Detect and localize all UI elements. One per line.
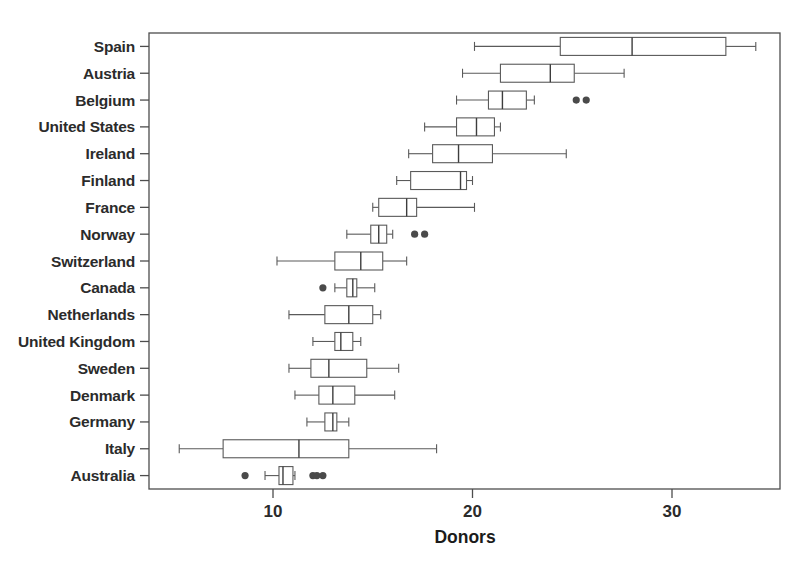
category-label-australia: Australia bbox=[70, 467, 135, 484]
category-label-italy: Italy bbox=[105, 440, 136, 457]
category-label-finland: Finland bbox=[81, 172, 135, 189]
category-label-austria: Austria bbox=[83, 65, 136, 82]
x-tick-label-30: 30 bbox=[663, 502, 682, 521]
outlier-point bbox=[583, 96, 590, 103]
chart-canvas: SpainAustriaBelgiumUnited StatesIrelandF… bbox=[0, 0, 804, 563]
category-label-united-kingdom: United Kingdom bbox=[18, 333, 135, 350]
x-tick-label-10: 10 bbox=[264, 502, 283, 521]
outlier-point bbox=[241, 472, 248, 479]
x-axis-title: Donors bbox=[434, 527, 496, 547]
category-label-germany: Germany bbox=[69, 413, 135, 430]
category-label-spain: Spain bbox=[94, 38, 135, 55]
outlier-point bbox=[573, 96, 580, 103]
category-label-united-states: United States bbox=[39, 118, 135, 135]
outlier-point bbox=[411, 231, 418, 238]
category-label-belgium: Belgium bbox=[75, 92, 135, 109]
x-tick-label-20: 20 bbox=[463, 502, 482, 521]
category-label-norway: Norway bbox=[80, 226, 135, 243]
category-label-sweden: Sweden bbox=[78, 360, 135, 377]
category-label-france: France bbox=[85, 199, 135, 216]
outlier-point bbox=[319, 284, 326, 291]
outlier-point bbox=[319, 472, 326, 479]
category-label-switzerland: Switzerland bbox=[51, 253, 135, 270]
category-label-ireland: Ireland bbox=[86, 145, 135, 162]
category-label-canada: Canada bbox=[80, 279, 135, 296]
outlier-point bbox=[421, 231, 428, 238]
category-label-netherlands: Netherlands bbox=[48, 306, 135, 323]
boxplot-chart: SpainAustriaBelgiumUnited StatesIrelandF… bbox=[0, 0, 804, 563]
category-label-denmark: Denmark bbox=[70, 387, 136, 404]
